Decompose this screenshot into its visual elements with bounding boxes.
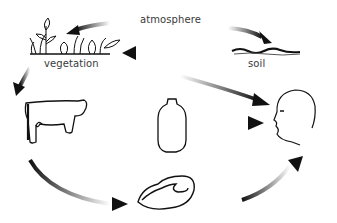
- food-chain-diagram: atmosphere soil vegetation: [0, 0, 337, 223]
- arrow-atmosphere-to-soil: [228, 28, 272, 44]
- atmosphere-label: atmosphere: [140, 14, 201, 25]
- cow-icon: [25, 100, 86, 143]
- arrow-atmosphere-to-vegetation: [66, 23, 110, 35]
- arrow-cow-to-meat: [30, 160, 128, 211]
- arrow-vegetation-to-cow: [13, 68, 30, 96]
- diagram-artwork: [0, 0, 337, 223]
- arrow-vegetation-to-human: [180, 76, 270, 106]
- milk-bottle-icon: [158, 99, 186, 152]
- arrow-meat-to-human: [242, 156, 303, 200]
- vegetation-label: vegetation: [44, 58, 99, 69]
- soil-label: soil: [248, 58, 265, 69]
- meat-steak-icon: [138, 176, 194, 209]
- soil-icon: [232, 49, 300, 55]
- arrow-soil-to-vegetation: [122, 46, 185, 60]
- human-head-icon: [274, 90, 315, 145]
- arrow-milk-to-human: [205, 116, 264, 130]
